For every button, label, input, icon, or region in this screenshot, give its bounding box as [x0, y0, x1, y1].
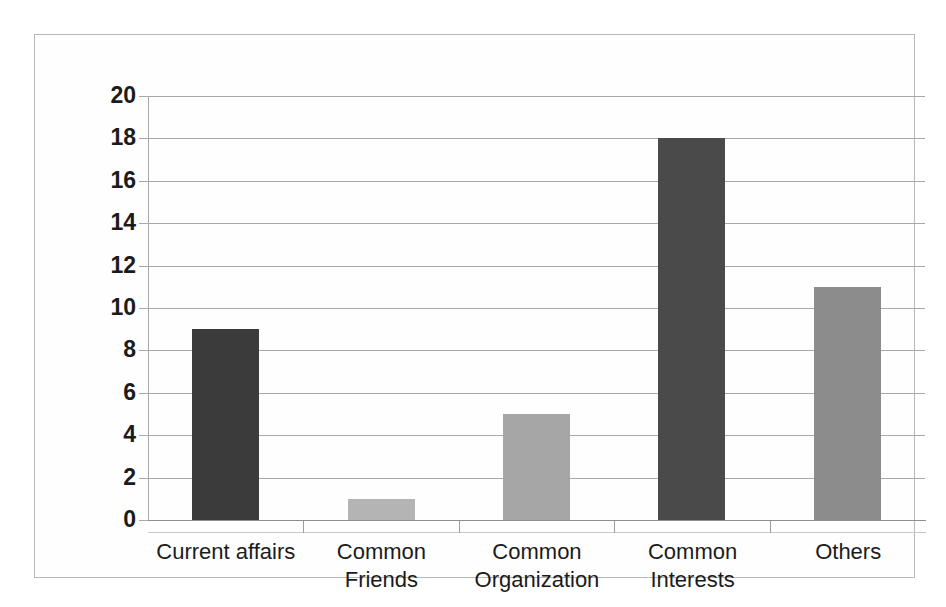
- y-axis-tick-label: 8: [82, 338, 136, 361]
- gridline: [148, 96, 925, 97]
- x-axis-tick-mark: [770, 521, 771, 533]
- y-axis-tick-mark: [139, 181, 148, 182]
- y-axis-tick-mark: [139, 223, 148, 224]
- x-axis-tick-mark: [614, 521, 615, 533]
- x-axis-tick-labels: Current affairsCommonFriendsCommonOrgani…: [148, 538, 926, 607]
- x-axis-tick-label: Others: [770, 538, 926, 607]
- y-axis-tick-label: 20: [82, 84, 136, 107]
- x-axis-tick-mark: [459, 521, 460, 533]
- y-axis-tick-mark: [139, 308, 148, 309]
- chart-page: 20181614121086420 Current affairsCommonF…: [0, 0, 946, 607]
- gridline: [148, 350, 925, 351]
- y-axis-tick-mark: [139, 138, 148, 139]
- y-axis-tick-label: 14: [82, 211, 136, 234]
- y-axis-tick-mark: [139, 96, 148, 97]
- y-axis-tick-mark: [139, 435, 148, 436]
- bar[interactable]: [192, 329, 259, 520]
- bar[interactable]: [658, 138, 725, 520]
- y-axis-tick-label: 6: [82, 381, 136, 404]
- gridline: [148, 393, 925, 394]
- y-axis-tick-mark: [139, 393, 148, 394]
- y-axis-tick-label: 18: [82, 126, 136, 149]
- x-axis-line: [148, 520, 926, 521]
- y-axis-tick-mark: [139, 350, 148, 351]
- x-axis-tick-label: CommonFriends: [304, 538, 460, 607]
- y-axis-tick-labels: 20181614121086420: [74, 35, 136, 577]
- x-axis-tick-label: CommonInterests: [615, 538, 771, 607]
- bar[interactable]: [348, 499, 415, 520]
- x-axis-secondary-line: [148, 532, 926, 533]
- y-axis-tick-label: 2: [82, 466, 136, 489]
- plot-area: [148, 96, 925, 520]
- y-axis-tick-mark: [139, 266, 148, 267]
- y-axis-tick-label: 16: [82, 169, 136, 192]
- bar[interactable]: [814, 287, 881, 520]
- y-axis-tick-mark: [139, 520, 148, 521]
- y-axis-tick-label: 0: [82, 508, 136, 531]
- y-axis-tick-mark: [139, 478, 148, 479]
- y-axis-tick-label: 10: [82, 296, 136, 319]
- y-axis-tick-label: 4: [82, 423, 136, 446]
- bar[interactable]: [503, 414, 570, 520]
- x-axis-tick-label: Current affairs: [148, 538, 304, 607]
- chart-frame: 20181614121086420 Current affairsCommonF…: [34, 34, 915, 578]
- x-axis-tick-mark: [303, 521, 304, 533]
- gridline: [148, 138, 925, 139]
- gridline: [148, 308, 925, 309]
- gridline: [148, 266, 925, 267]
- x-axis-tick-label: CommonOrganization: [459, 538, 615, 607]
- gridline: [148, 181, 925, 182]
- y-axis-tick-label: 12: [82, 254, 136, 277]
- gridline: [148, 223, 925, 224]
